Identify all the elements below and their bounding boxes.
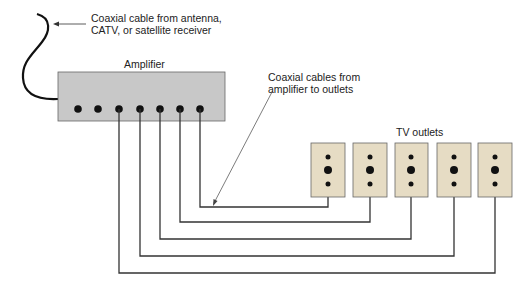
tv-outlet-3	[395, 143, 428, 197]
tv-outlet-2	[353, 143, 387, 197]
pointer-head-icon	[213, 199, 218, 206]
source-label-line2: CATV, or satellite receiver	[91, 24, 211, 36]
tv-outlet-5	[478, 143, 512, 197]
source-label-line1: Coaxial cable from antenna,	[91, 12, 222, 24]
tv-outlet-4	[437, 143, 471, 197]
distribution-diagram	[0, 0, 521, 289]
amplifier-label: Amplifier	[124, 58, 165, 70]
incoming-coax-cable	[23, 14, 58, 99]
tv-outlets	[311, 143, 512, 197]
outlets-label: TV outlets	[396, 126, 443, 138]
tv-outlet-1	[311, 143, 345, 197]
cables-label-line2: amplifier to outlets	[268, 83, 353, 95]
cables-label-line1: Coaxial cables from	[268, 71, 360, 83]
arrow-head-icon	[53, 22, 59, 27]
